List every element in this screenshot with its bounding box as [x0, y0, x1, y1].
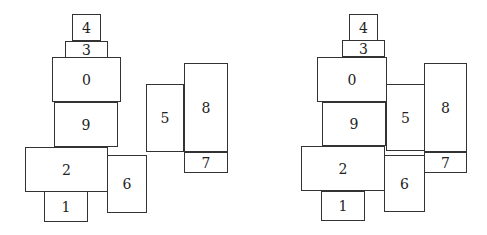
box-label: 6 — [400, 177, 409, 191]
box-label: 0 — [82, 73, 91, 87]
box-label: 8 — [441, 101, 450, 115]
box-9: 9 — [54, 102, 118, 147]
box-label: 1 — [339, 199, 348, 213]
box-label: 4 — [82, 21, 91, 35]
box-6: 6 — [107, 155, 147, 213]
box-label: 7 — [441, 156, 450, 170]
box-label: 6 — [123, 177, 132, 191]
box-label: 0 — [348, 73, 357, 87]
box-label: 2 — [62, 163, 71, 177]
box-5: 5 — [146, 84, 184, 152]
box-0: 0 — [317, 57, 387, 102]
box-label: 9 — [82, 118, 91, 132]
box-label: 2 — [339, 162, 348, 176]
box-3: 3 — [342, 40, 385, 57]
box-label: 7 — [202, 156, 211, 170]
box-5: 5 — [386, 84, 425, 151]
box-label: 4 — [359, 21, 368, 35]
box-7: 7 — [184, 152, 228, 173]
box-label: 3 — [359, 42, 368, 56]
box-4: 4 — [349, 14, 378, 41]
box-label: 1 — [62, 200, 71, 214]
box-7: 7 — [424, 152, 467, 173]
box-3: 3 — [65, 41, 108, 58]
box-2: 2 — [301, 146, 385, 191]
box-label: 5 — [401, 111, 410, 125]
box-label: 5 — [161, 111, 170, 125]
box-label: 8 — [202, 101, 211, 115]
box-1: 1 — [44, 191, 88, 222]
box-0: 0 — [52, 57, 121, 102]
box-4: 4 — [72, 14, 101, 41]
box-6: 6 — [384, 155, 425, 212]
box-1: 1 — [321, 191, 365, 221]
box-2: 2 — [25, 147, 108, 192]
box-label: 3 — [82, 43, 91, 57]
box-8: 8 — [184, 63, 228, 152]
box-label: 9 — [350, 117, 359, 131]
box-8: 8 — [424, 63, 467, 152]
box-9: 9 — [322, 102, 386, 146]
